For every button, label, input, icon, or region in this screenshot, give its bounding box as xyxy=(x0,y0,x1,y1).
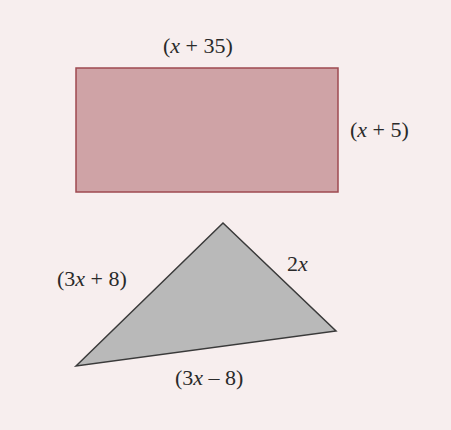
rectangle-shape xyxy=(76,68,338,192)
diagram-canvas: (x + 35) (x + 5) (3x + 8) 2x (3x – 8) xyxy=(0,0,451,430)
triangle-bottom-label: (3x – 8) xyxy=(175,367,243,389)
rectangle-top-label: (x + 35) xyxy=(163,35,233,57)
triangle-left-label: (3x + 8) xyxy=(57,268,127,290)
triangle-right-label: 2x xyxy=(287,253,308,275)
triangle-shape xyxy=(76,223,336,366)
rectangle-right-label: (x + 5) xyxy=(350,119,409,141)
